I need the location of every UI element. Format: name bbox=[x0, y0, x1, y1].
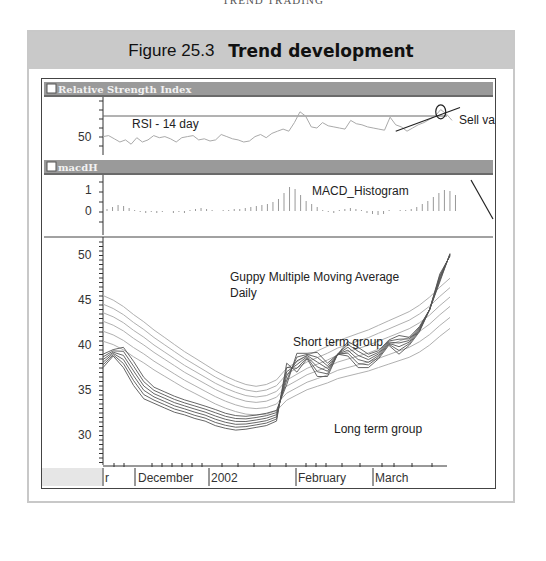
macd-panel: macdH 1 0 MACD_Histogram bbox=[44, 160, 493, 235]
chart-window: Relative Strength Index 50 RSI - 14 day … bbox=[41, 78, 496, 489]
macd-panel-title: macdH bbox=[58, 162, 98, 173]
x-label-february: February bbox=[298, 471, 346, 485]
figure-frame: Figure 25.3 Trend development Relative S… bbox=[27, 30, 515, 503]
x-label-december: December bbox=[138, 471, 193, 485]
rsi-panel-title: Relative Strength Index bbox=[58, 84, 192, 95]
macd-y-tick-1: 1 bbox=[85, 183, 92, 197]
gmma-label-line2: Daily bbox=[230, 286, 257, 300]
gmma-label-line1: Guppy Multiple Moving Average bbox=[230, 270, 400, 284]
price-panel: 50 45 40 35 30 25 Guppy Multiple Moving … bbox=[44, 237, 493, 487]
macd-trendline bbox=[471, 180, 493, 219]
x-label-2002: 2002 bbox=[211, 471, 238, 485]
chart-canvas: Relative Strength Index 50 RSI - 14 day … bbox=[42, 79, 495, 488]
long-term-group-label: Long term group bbox=[334, 422, 422, 436]
price-y-tick-40: 40 bbox=[78, 338, 92, 352]
price-y-ticks bbox=[99, 242, 103, 463]
rsi-label: RSI - 14 day bbox=[132, 117, 199, 131]
short-term-group-label: Short term group bbox=[293, 335, 383, 349]
macd-titlebar-border bbox=[44, 173, 493, 175]
x-label-march: March bbox=[375, 471, 408, 485]
figure-title: Trend development bbox=[228, 41, 413, 61]
rsi-trendline bbox=[396, 107, 460, 131]
sell-value-label: Sell value bbox=[459, 113, 495, 127]
x-label-0: r bbox=[105, 471, 109, 485]
macd-label: MACD_Histogram bbox=[312, 184, 409, 198]
rsi-titlebar-border bbox=[44, 95, 493, 97]
rsi-y-ticks bbox=[99, 101, 103, 146]
x-axis: r December 2002 February March bbox=[42, 463, 447, 486]
price-y-tick-35: 35 bbox=[78, 383, 92, 397]
x-axis-corner bbox=[42, 468, 102, 486]
figure-title-bar: Figure 25.3 Trend development bbox=[29, 32, 513, 69]
price-y-tick-45: 45 bbox=[78, 293, 92, 307]
price-y-tick-30: 30 bbox=[78, 428, 92, 442]
macd-y-tick-0: 0 bbox=[85, 204, 92, 218]
rsi-panel-checkbox[interactable] bbox=[47, 84, 56, 93]
rsi-panel: Relative Strength Index 50 RSI - 14 day … bbox=[44, 82, 495, 155]
macd-panel-checkbox[interactable] bbox=[47, 162, 56, 171]
running-head: TREND TRADING bbox=[0, 0, 546, 6]
price-y-tick-50: 50 bbox=[78, 248, 92, 262]
figure-number: Figure 25.3 bbox=[128, 41, 214, 61]
macd-y-ticks bbox=[99, 182, 103, 222]
rsi-y-tick-50: 50 bbox=[78, 130, 92, 144]
macd-panel-titlebar bbox=[44, 160, 493, 174]
